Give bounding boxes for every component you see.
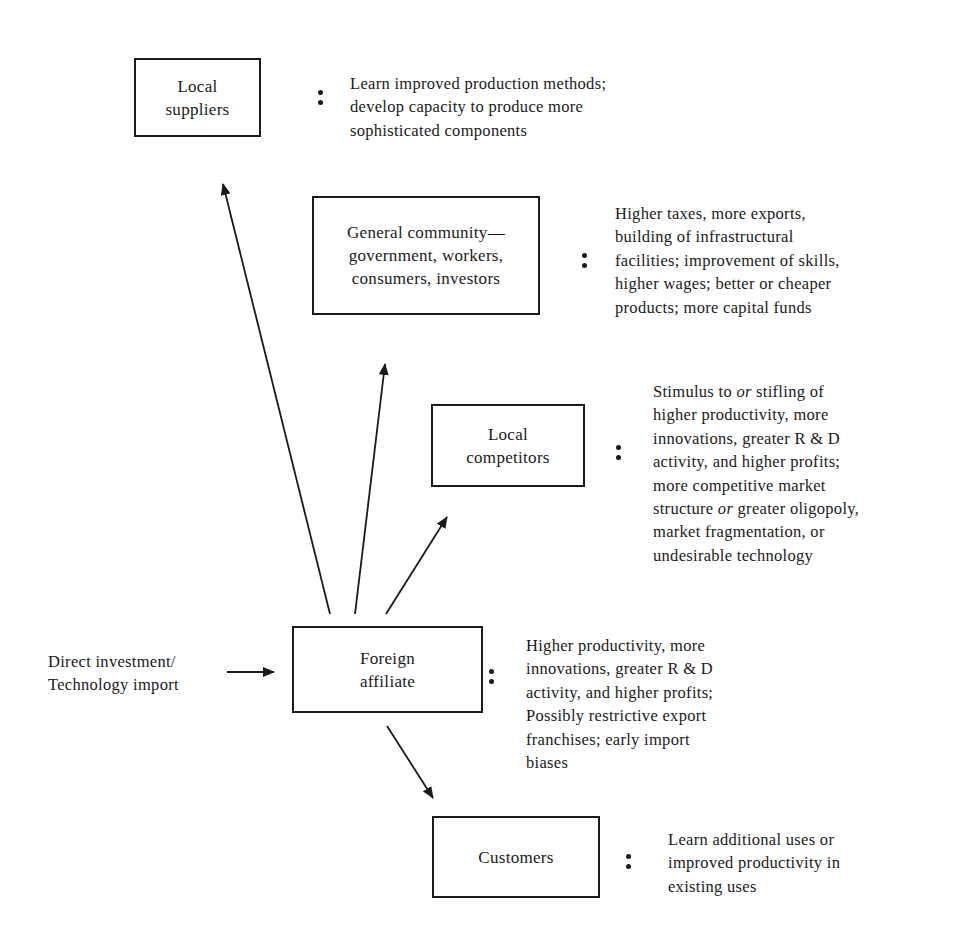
- node-label: Local competitors: [466, 423, 550, 469]
- node-foreign-affiliate: Foreign affiliate: [292, 626, 483, 713]
- effects-local-competitors: Stimulus to or stifling of higher produc…: [653, 380, 859, 567]
- arrow-to-general-community: [355, 364, 385, 614]
- effects-customers: Learn additional uses or improved produc…: [668, 828, 840, 898]
- colon-icon: [489, 669, 495, 689]
- node-label: Customers: [478, 846, 553, 869]
- node-local-suppliers: Local suppliers: [134, 58, 261, 137]
- colon-icon: [582, 253, 588, 273]
- input-label: Direct investment/ Technology import: [48, 650, 179, 696]
- effects-local-suppliers: Learn improved production methods; devel…: [350, 72, 606, 142]
- node-local-competitors: Local competitors: [431, 404, 585, 487]
- node-general-community: General community— government, workers, …: [312, 196, 540, 315]
- effects-foreign-affiliate: Higher productivity, more innovations, g…: [526, 634, 713, 774]
- arrow-to-local-competitors: [386, 517, 447, 614]
- effects-general-community: Higher taxes, more exports, building of …: [615, 202, 840, 319]
- colon-icon: [616, 445, 622, 465]
- arrow-to-customers: [387, 726, 433, 798]
- colon-icon: [318, 90, 324, 110]
- node-label: General community— government, workers, …: [347, 221, 505, 290]
- node-label: Foreign affiliate: [360, 647, 415, 693]
- node-label: Local suppliers: [165, 75, 229, 121]
- colon-icon: [626, 854, 632, 874]
- node-customers: Customers: [432, 816, 600, 898]
